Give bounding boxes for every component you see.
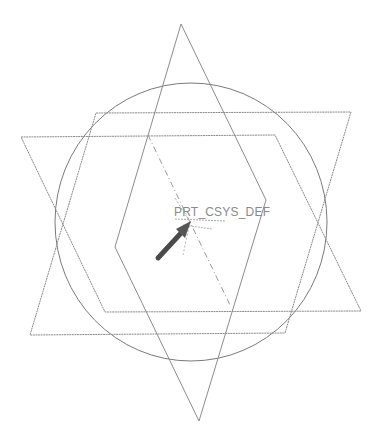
model-viewport[interactable]: PRT_CSYS_DEF bbox=[0, 0, 381, 443]
datum-plane-b[interactable] bbox=[21, 135, 361, 312]
model-graphics bbox=[0, 0, 381, 443]
datum-axis-dashed[interactable] bbox=[148, 135, 230, 305]
csys-label[interactable]: PRT_CSYS_DEF bbox=[174, 205, 270, 219]
circle-sketch[interactable] bbox=[55, 83, 327, 361]
